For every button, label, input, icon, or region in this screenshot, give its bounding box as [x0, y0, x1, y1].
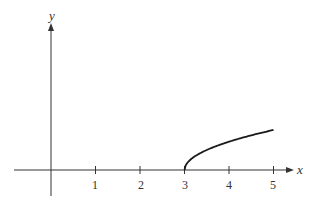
- y-axis-label: y: [47, 8, 55, 23]
- x-tick-labels: 1 2 3 4 5: [92, 178, 276, 192]
- function-graph: x y 1 2 3 4 5: [0, 0, 314, 209]
- y-axis-arrow-icon: [48, 23, 54, 31]
- x-axis-arrow-icon: [286, 167, 294, 173]
- tick-label-4: 4: [226, 178, 232, 192]
- x-axis-label: x: [296, 162, 303, 177]
- tick-label-3: 3: [182, 178, 188, 192]
- tick-label-5: 5: [270, 178, 276, 192]
- tick-label-1: 1: [92, 178, 98, 192]
- function-curve: [185, 130, 274, 170]
- tick-label-2: 2: [138, 178, 144, 192]
- axes: [14, 23, 294, 196]
